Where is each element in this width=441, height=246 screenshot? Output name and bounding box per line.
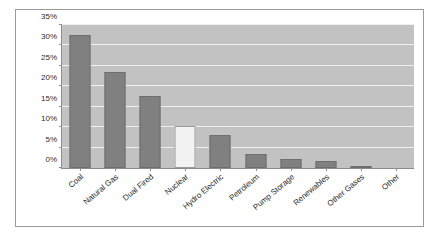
bar-slot: Nuclear xyxy=(168,25,203,168)
x-axis-tick-label: Petroleum xyxy=(228,173,261,203)
x-axis-tick-label: Renewables xyxy=(292,173,331,207)
y-axis-tick-label: 0% xyxy=(45,156,57,164)
x-axis-tick-label: Other Gases xyxy=(326,173,366,208)
y-axis-tick-label: 10% xyxy=(41,115,57,123)
bar[interactable] xyxy=(280,159,301,168)
x-axis-tick-mark xyxy=(150,168,151,171)
bar[interactable] xyxy=(245,154,266,168)
bar[interactable] xyxy=(139,96,160,168)
x-axis-tick-mark xyxy=(361,168,362,171)
y-axis-tick-label: 5% xyxy=(45,136,57,144)
bar[interactable] xyxy=(210,135,231,169)
bar-slot: Natural Gas xyxy=(97,25,132,168)
x-axis-tick-mark xyxy=(291,168,292,171)
bar[interactable] xyxy=(69,35,90,168)
bar[interactable] xyxy=(315,161,336,168)
bar-slot: Other Gases xyxy=(344,25,379,168)
plot-area: 0%5%10%15%20%25%30%35% CoalNatural GasDu… xyxy=(61,25,414,169)
x-axis-tick-mark xyxy=(185,168,186,171)
bar[interactable] xyxy=(175,126,196,168)
bar[interactable] xyxy=(104,72,125,168)
chart-frame: 0%5%10%15%20%25%30%35% CoalNatural GasDu… xyxy=(15,9,424,227)
y-axis-tick-label: 20% xyxy=(41,74,57,82)
x-axis-tick-label: Coal xyxy=(67,173,85,190)
x-axis-tick-mark xyxy=(326,168,327,171)
bar-slot: Coal xyxy=(62,25,97,168)
bar-slot: Other xyxy=(379,25,414,168)
x-axis-tick-label: Natural Gas xyxy=(82,173,120,207)
x-axis-tick-label: Dual Fired xyxy=(122,173,155,203)
y-axis-tick-label: 35% xyxy=(41,13,57,21)
x-axis-tick-mark xyxy=(80,168,81,171)
bar-slot: Petroleum xyxy=(238,25,273,168)
bar-slot: Hydro Electric xyxy=(203,25,238,168)
y-axis-tick-label: 25% xyxy=(41,54,57,62)
x-axis-tick-mark xyxy=(220,168,221,171)
x-axis-tick-label: Other xyxy=(381,173,401,192)
bar-slot: Renewables xyxy=(308,25,343,168)
y-axis-tick-label: 15% xyxy=(41,95,57,103)
bars-group: CoalNatural GasDual FiredNuclearHydro El… xyxy=(62,25,414,168)
bar-slot: Dual Fired xyxy=(132,25,167,168)
x-axis-tick-mark xyxy=(256,168,257,171)
x-axis-tick-mark xyxy=(396,168,397,171)
x-axis-tick-label: Nuclear xyxy=(164,173,190,197)
x-axis-tick-mark xyxy=(115,168,116,171)
y-axis-tick-label: 30% xyxy=(41,33,57,41)
bar-slot: Pump Storage xyxy=(273,25,308,168)
